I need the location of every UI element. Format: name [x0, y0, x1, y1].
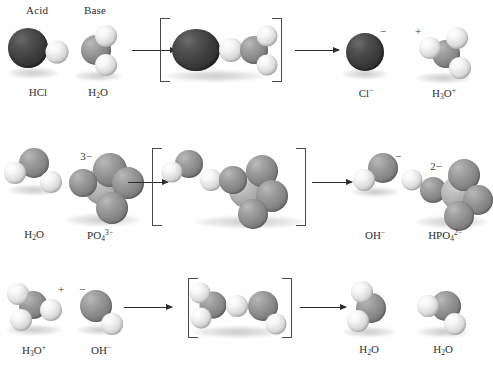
- reaction-arrow-2b: [312, 182, 352, 183]
- reaction-arrow-3a: [124, 307, 172, 308]
- caption-hydrogen-phosphate-ion: HPO42−: [428, 228, 462, 243]
- caption-water-product-2: H2O: [433, 343, 453, 357]
- atom-hydrogen: [95, 25, 117, 47]
- caption-chloride-ion: Cl−: [359, 86, 374, 99]
- atom-hydrogen: [347, 310, 369, 332]
- bracket-left-2: [152, 148, 162, 226]
- atom-chlorine: [346, 33, 384, 71]
- reaction-arrow-1b: [295, 50, 339, 51]
- atom-hydrogen: [191, 308, 212, 329]
- bracket-left-1: [160, 18, 170, 82]
- caption-hydronium-ion: H3O+: [432, 86, 456, 101]
- molecule-shadow: [165, 70, 265, 82]
- atom-hydrogen: [353, 169, 375, 191]
- caption-phosphate-ion: PO43−: [87, 228, 113, 243]
- atom-hydrogen: [4, 162, 26, 184]
- atom-hydrogen: [449, 57, 471, 79]
- atom-oxygen: [238, 199, 268, 229]
- atom-hydrogen: [190, 283, 211, 304]
- atom-hydrogen: [419, 37, 441, 59]
- reaction-arrow-2a: [128, 182, 168, 183]
- charge-label-hydronium-r3: +: [58, 283, 64, 295]
- atom-hydrogen: [444, 313, 466, 335]
- atom-oxygen: [219, 166, 247, 194]
- atom-hydrogen: [257, 55, 278, 76]
- atom-hydrogen-transferring: [226, 295, 248, 317]
- charge-label-hydronium: +: [415, 25, 421, 37]
- atom-hydrogen: [40, 299, 62, 321]
- caption-water-r2: H2O: [24, 228, 44, 242]
- atom-oxygen: [444, 201, 474, 231]
- atom-chlorine: [172, 29, 220, 71]
- atom-hydrogen: [46, 41, 69, 64]
- atom-oxygen: [69, 169, 97, 197]
- reaction-arrow-3b: [300, 307, 346, 308]
- atom-hydrogen: [40, 171, 62, 193]
- caption-hydronium-ion-r3: H3O+: [22, 343, 46, 358]
- charge-label-hydrogen-phosphate: 2−: [430, 160, 442, 172]
- caption-hydroxide-ion-r2: OH−: [365, 228, 385, 241]
- atom-hydrogen: [95, 54, 117, 76]
- caption-water-product-1: H2O: [359, 343, 379, 357]
- caption-hcl: HCl: [29, 86, 47, 98]
- molecule-shadow: [7, 68, 59, 79]
- charge-label-phosphate: 3−: [80, 150, 92, 162]
- atom-hydrogen: [266, 314, 287, 335]
- atom-hydrogen: [446, 27, 468, 49]
- atom-hydrogen: [417, 295, 439, 317]
- atom-hydrogen: [101, 313, 123, 335]
- column-header-acid: Acid: [26, 4, 48, 16]
- atom-hydrogen: [7, 283, 29, 305]
- atom-hydrogen: [351, 281, 373, 303]
- caption-hydroxide-ion-r3: OH−: [91, 343, 111, 356]
- charge-label-hydroxide-r3: −: [79, 283, 85, 295]
- charge-label-chloride: −: [380, 25, 386, 37]
- caption-water-r1: H2O: [88, 86, 108, 100]
- bracket-right-2: [296, 148, 306, 226]
- atom-hydrogen: [162, 162, 183, 183]
- atom-oxygen: [96, 192, 128, 224]
- atom-hydrogen: [10, 309, 32, 331]
- column-header-base: Base: [84, 4, 106, 16]
- atom-chlorine: [8, 28, 48, 68]
- atom-hydrogen: [257, 26, 278, 47]
